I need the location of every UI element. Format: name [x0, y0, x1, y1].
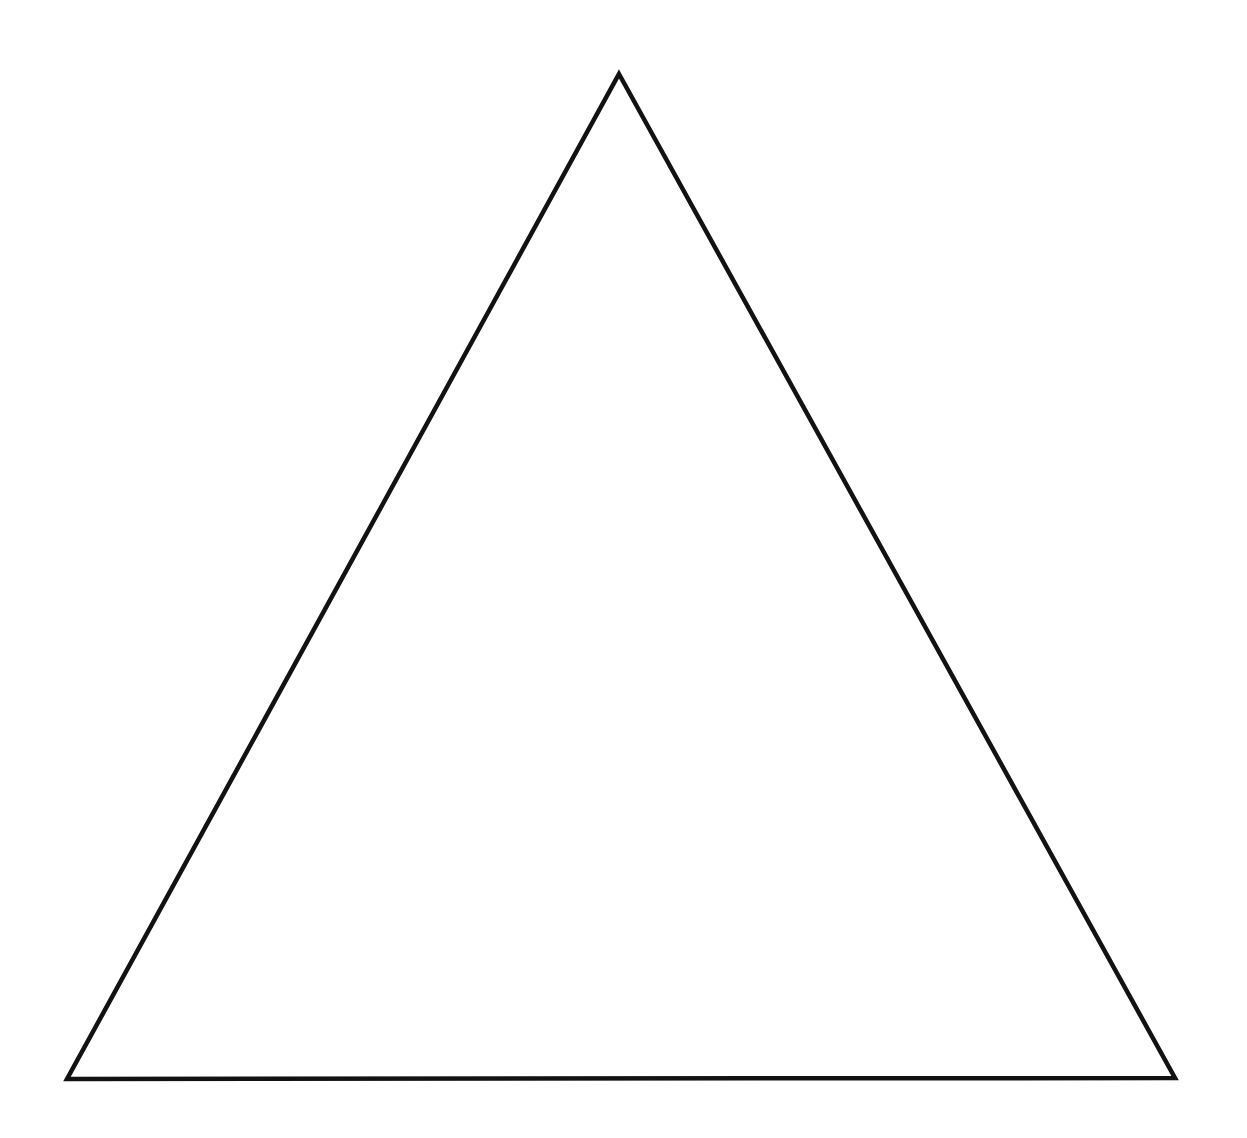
figure-svg-canvas [0, 0, 1247, 1138]
drawing-canvas: Triangle Outline Drawing A single large … [0, 0, 1247, 1138]
canvas-background [0, 0, 1247, 1138]
